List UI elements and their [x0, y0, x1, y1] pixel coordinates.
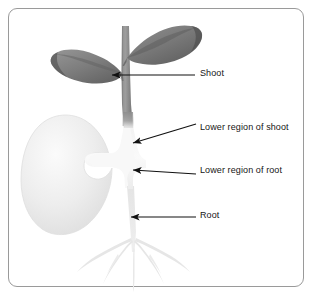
stem	[122, 26, 134, 128]
label-root: Root	[200, 210, 219, 221]
lower-left-leaf	[51, 50, 124, 84]
upper-right-leaf	[123, 25, 203, 66]
label-shoot: Shoot	[200, 68, 224, 79]
arrow-lower-region-shoot	[133, 124, 196, 143]
diagram-page: Shoot Lower region of shoot Lower region…	[0, 0, 314, 297]
label-lower-region-of-shoot: Lower region of shoot	[200, 122, 289, 133]
cotyledon	[21, 115, 112, 235]
arrow-lower-region-root	[133, 170, 196, 174]
label-lower-region-of-root: Lower region of root	[200, 165, 282, 176]
seedling-figure	[0, 0, 314, 297]
